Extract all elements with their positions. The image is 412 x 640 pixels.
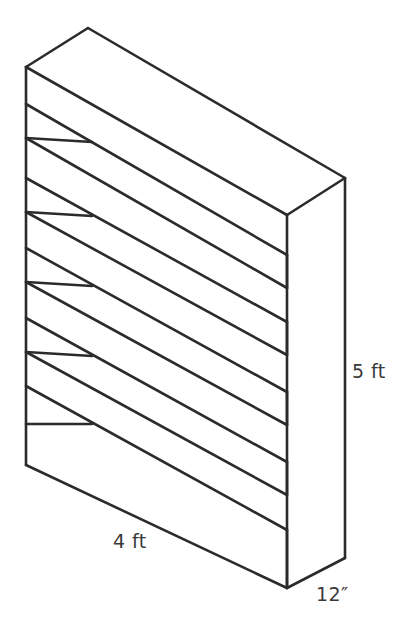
bookshelf-isometric-drawing: 5 ft 4 ft 12″ [0, 0, 412, 640]
right-end-face-fill [287, 178, 345, 588]
depth-dimension-label: 12″ [316, 583, 348, 605]
figure-root: 5 ft 4 ft 12″ [0, 0, 412, 640]
height-dimension-label: 5 ft [352, 360, 386, 382]
width-dimension-label: 4 ft [113, 530, 147, 552]
